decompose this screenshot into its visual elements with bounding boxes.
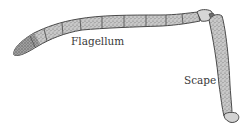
- scape-label: Scape: [184, 75, 216, 86]
- flagellum-label: Flagellum: [71, 36, 124, 47]
- antenna-illustration: Flagellum Scape: [0, 0, 252, 132]
- scape-shape: [209, 15, 232, 116]
- antenna-drawing: [0, 0, 252, 132]
- flagellum-shape: [14, 12, 200, 55]
- scape-base: [224, 112, 239, 122]
